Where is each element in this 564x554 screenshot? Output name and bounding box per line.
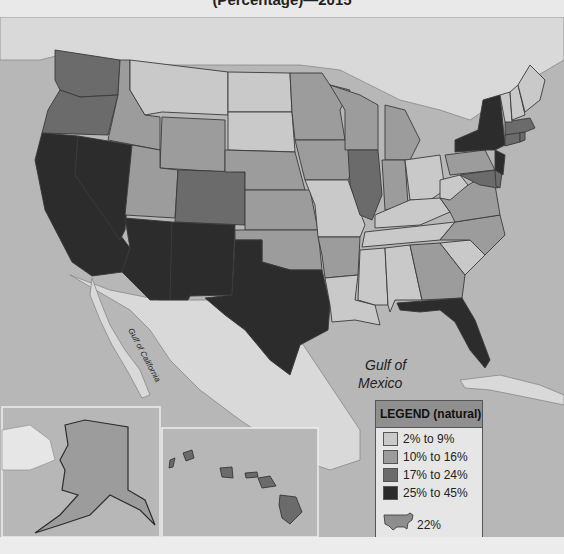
gulf-of-mexico-label-2: Mexico [358,375,403,391]
legend-item: 10% to 16% [383,450,482,464]
bottom-margin [0,537,564,554]
legend-label: 10% to 16% [403,450,468,464]
state-MI[interactable] [385,105,420,160]
state-FL[interactable] [397,298,490,368]
state-AZ[interactable] [122,218,172,300]
legend-label: 2% to 9% [403,432,454,446]
legend-swatch-icon [383,486,398,500]
map-title: (Percentage)—2015 [0,0,564,8]
state-AR[interactable] [318,237,360,278]
hawaii-inset [162,428,318,537]
state-ND[interactable] [228,72,292,112]
legend-item: 17% to 24% [383,468,482,482]
gulf-of-mexico-label: Gulf of [365,357,408,373]
state-NM[interactable] [170,222,235,300]
legend-item: 25% to 45% [383,486,482,500]
legend: LEGEND (natural) 2% to 9% 10% to 16% 17%… [375,400,483,538]
legend-title: LEGEND (natural) [376,401,482,428]
state-RI[interactable] [520,132,525,142]
us-map-icon [383,512,415,532]
us-average: 22% [383,512,482,532]
legend-label: 25% to 45% [403,486,468,500]
state-WY[interactable] [160,117,225,172]
state-SD[interactable] [228,112,295,152]
state-NJ[interactable] [495,150,505,175]
state-MN[interactable] [290,73,350,140]
alaska-inset [2,407,160,537]
legend-swatch-icon [383,468,398,482]
legend-swatch-icon [383,450,398,464]
state-CO[interactable] [175,170,245,225]
legend-swatch-icon [383,432,398,446]
state-MT[interactable] [130,60,228,115]
state-OH[interactable] [405,155,445,200]
state-OR[interactable] [42,90,118,135]
us-average-value: 22% [417,518,441,532]
legend-label: 17% to 24% [403,468,468,482]
legend-item: 2% to 9% [383,432,482,446]
state-KS[interactable] [245,190,318,230]
state-MS[interactable] [358,248,388,305]
